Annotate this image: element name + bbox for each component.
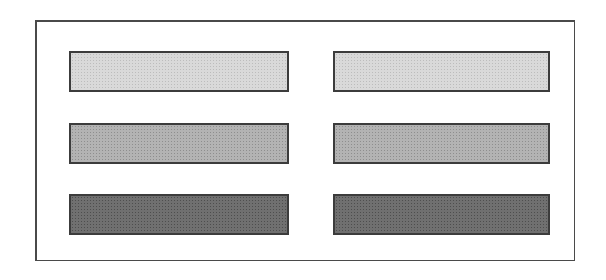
bar-label [335,53,336,54]
bar-label [335,125,336,126]
bar-left-dark [69,194,289,235]
bar-label [335,196,336,197]
bar-label [71,53,72,54]
bar-left-light [69,51,289,92]
bar-right-dark [333,194,550,235]
bar-label [71,125,72,126]
bar-right-light [333,51,550,92]
bar-left-medium [69,123,289,164]
bar-label [71,196,72,197]
bar-right-medium [333,123,550,164]
